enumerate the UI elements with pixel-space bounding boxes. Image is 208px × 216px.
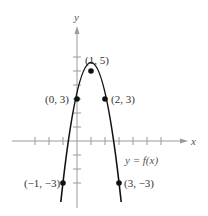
label-m1-m3: (−1, −3)	[24, 177, 61, 190]
parabola-curve	[61, 63, 121, 203]
point-m1-m3	[60, 180, 66, 186]
function-label: y = f(x)	[124, 154, 158, 167]
x-axis-arrow-icon	[180, 139, 188, 144]
function-graph: y x (1, 5) (0, 3) (2, 3) (−1, −3) (3, −3…	[0, 0, 208, 216]
label-2-3: (2, 3)	[111, 93, 135, 106]
x-axis-label: x	[190, 135, 196, 147]
label-0-3: (0, 3)	[45, 93, 69, 106]
data-points	[60, 68, 122, 186]
y-axis	[73, 26, 81, 208]
y-axis-label: y	[73, 11, 79, 23]
label-3-m3: (3, −3)	[124, 177, 154, 190]
point-3-m3	[116, 180, 122, 186]
label-vertex: (1, 5)	[85, 54, 109, 67]
x-axis	[12, 137, 188, 145]
point-vertex	[88, 68, 94, 74]
y-axis-arrow-icon	[75, 26, 80, 34]
point-0-3	[74, 96, 80, 102]
point-2-3	[102, 96, 108, 102]
